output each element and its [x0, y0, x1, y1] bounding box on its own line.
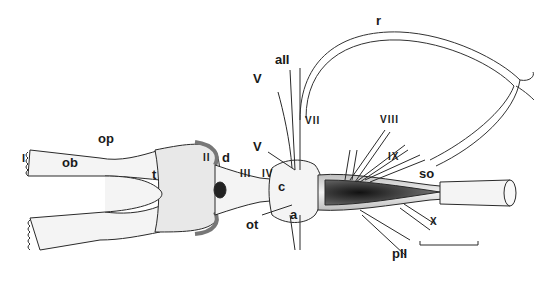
- label-IX: IX: [388, 150, 399, 163]
- label-a: a: [290, 208, 297, 221]
- label-V-lower: V: [253, 140, 262, 153]
- pineal-dark-spot: [214, 182, 226, 198]
- label-IV: IV: [262, 167, 273, 180]
- hindbrain: [318, 174, 460, 210]
- spinal-cord: [440, 180, 516, 206]
- label-ob: ob: [62, 156, 78, 169]
- label-ot: ot: [246, 218, 258, 231]
- label-d: d: [222, 151, 230, 164]
- label-II: II: [203, 151, 211, 164]
- label-so: so: [419, 167, 434, 180]
- label-VIII: VIII: [380, 113, 399, 126]
- label-op: op: [98, 132, 114, 145]
- label-pII: pII: [392, 247, 407, 260]
- label-r: r: [376, 14, 381, 27]
- scale-bar: [420, 241, 478, 245]
- ramus-r-nerve: [300, 32, 534, 166]
- label-I: I: [22, 152, 25, 165]
- label-aII: aII: [275, 53, 289, 66]
- label-t: t: [152, 168, 156, 181]
- label-VII: VII: [305, 114, 320, 127]
- label-V-upper: V: [253, 72, 262, 85]
- label-c: c: [278, 180, 285, 193]
- fish-brain-diagram: [0, 0, 557, 283]
- label-X: X: [430, 215, 438, 228]
- label-III: III: [240, 167, 251, 180]
